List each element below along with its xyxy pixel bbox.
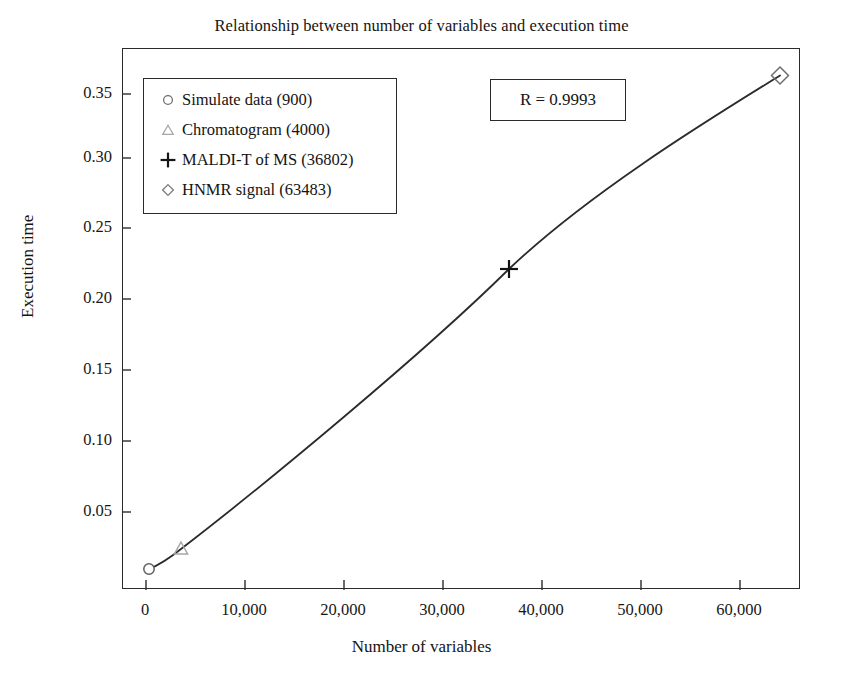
plus-marker-icon (156, 148, 180, 172)
y-tick-label: 0.15 (46, 359, 112, 379)
correlation-annotation-box: R = 0.9993 (490, 79, 626, 121)
y-tick-label: 0.30 (46, 147, 112, 167)
x-tick-label: 40,000 (518, 600, 563, 620)
chart-legend: Simulate data (900) Chromatogram (4000) … (143, 78, 397, 214)
x-tick-label: 10,000 (221, 600, 266, 620)
legend-item-simulate-data: Simulate data (900) (144, 85, 396, 115)
legend-label: Chromatogram (4000) (182, 120, 330, 140)
x-axis-tick-labels: 0 10,000 20,000 30,000 40,000 50,000 60,… (0, 600, 843, 630)
y-axis-tick-labels: 0.35 0.30 0.25 0.20 0.15 0.10 0.05 (40, 0, 112, 683)
y-tick-label: 0.05 (46, 501, 112, 521)
circle-marker-icon (156, 88, 180, 112)
y-axis-title: Execution time (18, 215, 38, 318)
x-tick-label: 50,000 (617, 600, 662, 620)
x-axis-title: Number of variables (0, 637, 843, 657)
chart-figure: Relationship between number of variables… (0, 0, 843, 683)
x-tick-label: 30,000 (419, 600, 464, 620)
legend-label: MALDI-T of MS (36802) (182, 150, 354, 170)
legend-item-maldi-t-of-ms: MALDI-T of MS (36802) (144, 145, 396, 175)
diamond-marker-icon (156, 178, 180, 202)
legend-label: HNMR signal (63483) (182, 180, 331, 200)
legend-item-hnmr-signal: HNMR signal (63483) (144, 175, 396, 205)
data-point-simulate-data (144, 564, 154, 574)
x-tick-label: 20,000 (320, 600, 365, 620)
x-tick-label: 60,000 (716, 600, 761, 620)
x-axis-tick-marks (146, 580, 740, 590)
y-tick-label: 0.10 (46, 430, 112, 450)
legend-item-chromatogram: Chromatogram (4000) (144, 115, 396, 145)
triangle-marker-icon (156, 118, 180, 142)
y-tick-label: 0.20 (46, 288, 112, 308)
y-axis-tick-marks (123, 94, 131, 512)
y-tick-label: 0.25 (46, 217, 112, 237)
legend-label: Simulate data (900) (182, 90, 312, 110)
x-tick-label: 0 (141, 600, 149, 620)
chart-title: Relationship between number of variables… (0, 16, 843, 36)
y-tick-label: 0.35 (46, 83, 112, 103)
correlation-value: R = 0.9993 (520, 90, 596, 110)
